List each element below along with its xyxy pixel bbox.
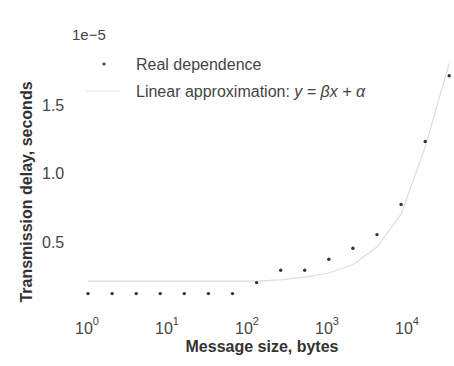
legend-dot-icon (102, 62, 105, 65)
data-point (207, 292, 210, 295)
chart: 1e−5 0.51.01.5 100101102103104 Transmiss… (0, 0, 454, 366)
y-axis-label: Transmission delay, seconds (18, 81, 35, 302)
data-point (351, 247, 354, 250)
data-point (279, 269, 282, 272)
x-axis-ticks: 100101102103104 (75, 315, 419, 337)
legend: Real dependence Linear approximation: y … (86, 56, 366, 100)
data-point (375, 233, 378, 236)
data-point (424, 140, 427, 143)
real-dependence-points (86, 74, 451, 295)
x-axis-label: Message size, bytes (186, 338, 339, 355)
y-tick-label: 1.5 (42, 97, 64, 114)
data-point (255, 281, 258, 284)
x-tick-label: 100 (75, 315, 99, 337)
y-axis-ticks: 0.51.01.5 (42, 97, 64, 251)
x-tick-label: 101 (155, 315, 179, 337)
x-tick-label: 102 (235, 315, 259, 337)
y-tick-label: 1.0 (42, 165, 64, 182)
y-tick-label: 0.5 (42, 234, 64, 251)
data-point (159, 292, 162, 295)
legend-label-real: Real dependence (136, 56, 262, 73)
data-point (448, 74, 451, 77)
x-tick-label: 103 (315, 315, 339, 337)
y-offset-label: 1e−5 (72, 26, 106, 43)
legend-label-linear: Linear approximation: y = βx + α (136, 83, 366, 100)
data-point (231, 292, 234, 295)
data-point (110, 292, 113, 295)
data-point (86, 292, 89, 295)
data-point (399, 203, 402, 206)
x-tick-label: 104 (395, 315, 419, 337)
data-point (183, 292, 186, 295)
data-point (135, 292, 138, 295)
data-point (303, 269, 306, 272)
data-point (327, 258, 330, 261)
